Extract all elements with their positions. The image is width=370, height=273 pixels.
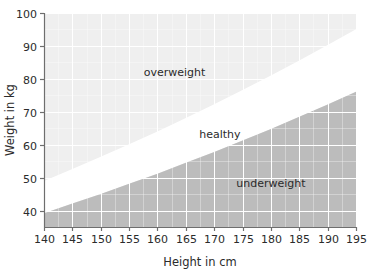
region-label-healthy: healthy xyxy=(199,128,241,141)
y-tick-label: 100 xyxy=(16,8,37,21)
y-tick-label: 40 xyxy=(23,206,37,219)
x-tick-label: 180 xyxy=(261,233,282,246)
chart-canvas: 405060708090100 140145150155160165170175… xyxy=(0,0,370,273)
bmi-chart-figure: 405060708090100 140145150155160165170175… xyxy=(0,0,370,273)
x-tick-label: 140 xyxy=(34,233,55,246)
y-axis-tick-labels: 405060708090100 xyxy=(16,8,37,219)
x-axis-title: Height in cm xyxy=(163,255,236,269)
y-tick-label: 70 xyxy=(23,107,37,120)
x-tick-label: 150 xyxy=(91,233,112,246)
y-axis-ticks xyxy=(40,14,44,212)
y-tick-label: 80 xyxy=(23,74,37,87)
x-tick-label: 185 xyxy=(289,233,310,246)
x-tick-label: 170 xyxy=(204,233,225,246)
x-tick-label: 195 xyxy=(346,233,367,246)
x-tick-label: 155 xyxy=(119,233,140,246)
region-label-underweight: underweight xyxy=(236,177,306,190)
y-tick-label: 50 xyxy=(23,173,37,186)
x-tick-label: 165 xyxy=(176,233,197,246)
region-label-overweight: overweight xyxy=(144,66,206,79)
x-axis-tick-labels: 140145150155160165170175180185190195 xyxy=(34,233,367,246)
y-axis-title: Weight in kg xyxy=(3,84,17,156)
x-tick-label: 145 xyxy=(62,233,83,246)
y-tick-label: 60 xyxy=(23,140,37,153)
x-tick-label: 175 xyxy=(233,233,254,246)
x-tick-label: 160 xyxy=(147,233,168,246)
x-tick-label: 190 xyxy=(318,233,339,246)
y-tick-label: 90 xyxy=(23,41,37,54)
